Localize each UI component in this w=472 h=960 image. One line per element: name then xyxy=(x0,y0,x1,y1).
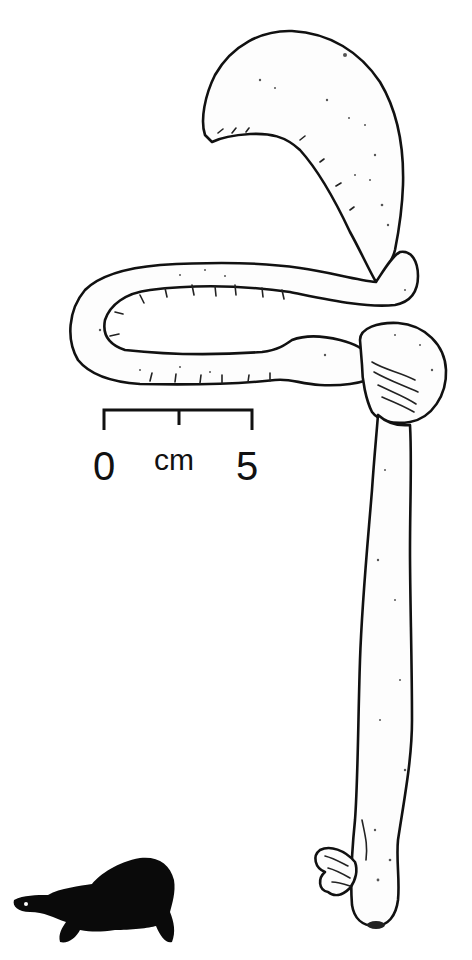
scale-unit-label: cm xyxy=(154,443,194,476)
turtle-silhouette-icon xyxy=(14,858,175,943)
stomach xyxy=(203,31,403,282)
scale-start-label: 0 xyxy=(93,444,115,488)
caecum xyxy=(360,323,446,423)
bladder xyxy=(315,848,356,895)
scale-bar: 0 cm 5 xyxy=(93,410,258,488)
cloaca xyxy=(367,921,385,929)
scale-end-label: 5 xyxy=(236,444,258,488)
digestive-tract-diagram: 0 cm 5 xyxy=(0,0,472,960)
large-intestine xyxy=(351,415,412,926)
